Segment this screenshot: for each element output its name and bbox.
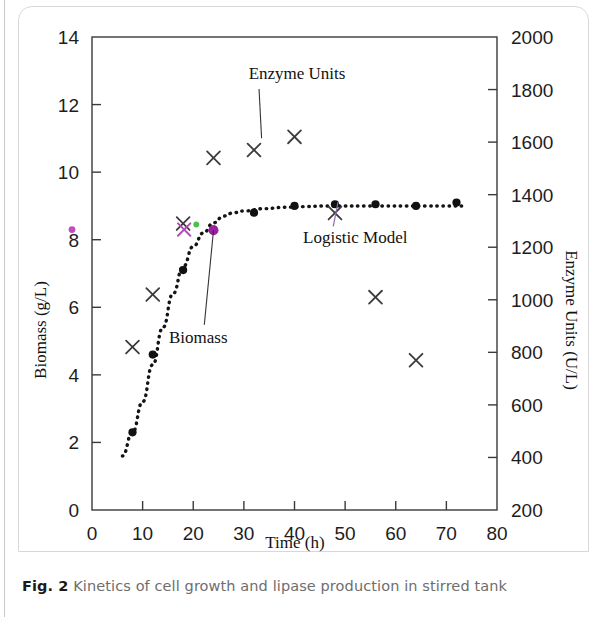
y2-tick-label: 1600 — [511, 132, 553, 153]
annotation-leader-biomass — [204, 230, 213, 325]
y2-axis-ticks — [488, 90, 497, 458]
y-axis-tick-labels: 02468101214 — [58, 27, 80, 521]
color-key-marks — [69, 222, 219, 236]
figure-caption: Fig. 2 Kinetics of cell growth and lipas… — [22, 578, 582, 594]
biomass-marker — [179, 266, 187, 274]
x-tick-label: 20 — [183, 523, 204, 544]
y2-axis-title: Enzyme Units (U/L) — [562, 250, 581, 390]
model-sample-dot — [193, 222, 199, 228]
y2-tick-label: 1000 — [511, 290, 553, 311]
y-tick-label: 0 — [68, 500, 79, 521]
kinetics-chart: 01020304050607080 02468101214 2004006008… — [0, 0, 597, 556]
annotation-label-biomass: Biomass — [169, 328, 228, 347]
enzyme-marker — [207, 151, 220, 164]
x-tick-label: 30 — [233, 523, 254, 544]
y2-tick-label: 400 — [511, 447, 543, 468]
biomass-marker — [128, 428, 136, 436]
biomass-marker — [290, 202, 298, 210]
axis-highlight-dot — [69, 226, 76, 233]
enzyme-marker — [126, 341, 139, 354]
biomass-marker — [371, 200, 379, 208]
enzyme-marker — [288, 130, 301, 143]
enzyme-marker — [248, 144, 261, 157]
y2-tick-label: 1200 — [511, 237, 553, 258]
plot-frame — [92, 37, 497, 510]
figure-number: Fig. 2 — [22, 578, 69, 594]
y2-axis-tick-labels: 200400600800100012001400160018002000 — [511, 27, 553, 521]
annotation-leader-enzyme-units — [259, 89, 262, 138]
caption-text: Kinetics of cell growth and lipase produ… — [73, 578, 507, 594]
y2-tick-label: 1400 — [511, 185, 553, 206]
x-tick-label: 10 — [132, 523, 153, 544]
enzyme-marker — [146, 288, 159, 301]
y-tick-label: 6 — [68, 297, 79, 318]
x-axis-title: Time (h) — [265, 533, 324, 552]
x-tick-label: 70 — [436, 523, 457, 544]
plot-stage: 01020304050607080 02468101214 2004006008… — [0, 0, 597, 556]
biomass-marker — [149, 350, 157, 358]
y2-tick-label: 2000 — [511, 27, 553, 48]
y2-tick-label: 1800 — [511, 80, 553, 101]
biomass-marker — [452, 198, 460, 206]
enzyme-marker — [410, 354, 423, 367]
enzyme-marker — [369, 291, 382, 304]
x-tick-label: 50 — [335, 523, 356, 544]
y2-tick-label: 600 — [511, 395, 543, 416]
x-tick-label: 60 — [385, 523, 406, 544]
y-tick-label: 8 — [68, 230, 79, 251]
x-tick-label: 80 — [486, 523, 507, 544]
y-axis-ticks — [92, 105, 101, 443]
x-axis-ticks — [143, 501, 447, 510]
y2-tick-label: 800 — [511, 342, 543, 363]
y-tick-label: 4 — [68, 365, 79, 386]
y2-tick-label: 200 — [511, 500, 543, 521]
y-tick-label: 14 — [58, 27, 80, 48]
y-tick-label: 10 — [58, 162, 79, 183]
annotation-label-logistic-model: Logistic Model — [303, 228, 408, 247]
y-tick-label: 2 — [68, 432, 79, 453]
biomass-marker — [412, 202, 420, 210]
annotation-label-enzyme-units: Enzyme Units — [249, 64, 346, 83]
y-axis-title: Biomass (g/L) — [31, 281, 50, 379]
y-tick-label: 12 — [58, 95, 79, 116]
x-tick-label: 0 — [87, 523, 98, 544]
biomass-marker — [250, 209, 258, 217]
